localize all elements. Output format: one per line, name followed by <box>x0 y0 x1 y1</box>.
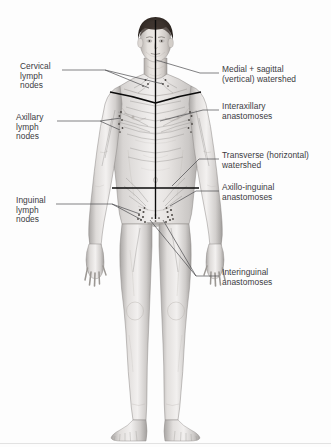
label-medial-sagittal-watershed: Medial + sagittal (vertical) watershed <box>222 65 296 84</box>
legs-group <box>111 224 200 441</box>
left-hand <box>85 244 106 286</box>
label-axillary-lymph-nodes: Axillary lymph nodes <box>16 113 43 142</box>
label-transverse-watershed: Transverse (horizontal) watershed <box>222 151 309 170</box>
label-cervical-lymph-nodes: Cervical lymph nodes <box>20 62 51 91</box>
label-interinguinal-anastomoses: Interinguinal anastomoses <box>222 268 272 287</box>
lymphatic-anatomy-figure: Cervical lymph nodes Axillary lymph node… <box>0 0 331 447</box>
label-inguinal-lymph-nodes: Inguinal lymph nodes <box>16 196 46 225</box>
label-interaxillary-anastomoses: Interaxillary anastomoses <box>222 102 272 121</box>
label-axillo-inguinal-anastomoses: Axillo-inguinal anastomoses <box>222 183 274 202</box>
